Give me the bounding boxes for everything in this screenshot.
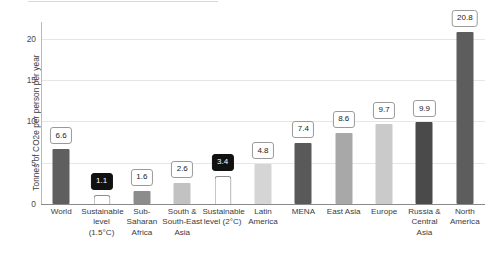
bar[interactable] bbox=[53, 149, 70, 204]
category-label-line: World bbox=[41, 207, 81, 217]
category-label-line: MENA bbox=[283, 207, 323, 217]
bar-value-badge: 1.6 bbox=[131, 169, 153, 186]
category-label-line: America bbox=[243, 217, 283, 227]
category-label-line: Asia bbox=[162, 228, 202, 238]
x-axis-category-label: East Asia bbox=[324, 207, 364, 217]
bar-series: 6.61.11.62.63.44.87.48.69.79.920.8 bbox=[41, 22, 485, 204]
bar-slot: 9.9 bbox=[404, 22, 444, 204]
y-axis-tick-label: 15 bbox=[27, 75, 36, 85]
category-label-line: level (2°C) bbox=[202, 217, 242, 227]
bar-slot: 6.6 bbox=[41, 22, 81, 204]
x-axis-category-label: Russia &Central Asia bbox=[404, 207, 444, 238]
y-axis-tick-label: 10 bbox=[27, 116, 36, 126]
bar-value-badge: 9.9 bbox=[413, 100, 435, 117]
x-axis-category-labels: WorldSustainablelevel (1.5°C)Sub-Saharan… bbox=[41, 207, 485, 253]
bar[interactable] bbox=[214, 176, 231, 204]
emissions-bar-chart: Tonnes of CO2e per person per year 05101… bbox=[0, 0, 492, 254]
x-axis-line bbox=[41, 204, 485, 205]
bar-value-badge: 8.6 bbox=[333, 111, 355, 128]
category-label-line: Sub- bbox=[122, 207, 162, 217]
bar-value-badge: 1.1 bbox=[90, 173, 112, 190]
bar-slot: 7.4 bbox=[283, 22, 323, 204]
bar-value-badge: 7.4 bbox=[292, 121, 314, 138]
category-label-line: Russia & bbox=[404, 207, 444, 217]
bar[interactable] bbox=[335, 133, 352, 204]
bar[interactable] bbox=[133, 191, 150, 204]
x-axis-category-label: Sub-SaharanAfrica bbox=[122, 207, 162, 238]
bar-value-badge: 9.7 bbox=[373, 102, 395, 119]
bar[interactable] bbox=[456, 32, 473, 204]
category-label-line: level (1.5°C) bbox=[81, 217, 121, 238]
bar-value-badge: 4.8 bbox=[252, 142, 274, 159]
bar[interactable] bbox=[376, 124, 393, 204]
bar-slot: 3.4 bbox=[202, 22, 242, 204]
bar[interactable] bbox=[416, 122, 433, 204]
category-label-line: Sustainable bbox=[202, 207, 242, 217]
bar-slot: 9.7 bbox=[364, 22, 404, 204]
bar[interactable] bbox=[254, 164, 271, 204]
category-label-line: East Asia bbox=[324, 207, 364, 217]
x-axis-category-label: Sustainablelevel (1.5°C) bbox=[81, 207, 121, 238]
bar-value-badge: 6.6 bbox=[50, 127, 72, 144]
x-axis-category-label: Europe bbox=[364, 207, 404, 217]
bar-slot: 1.6 bbox=[122, 22, 162, 204]
bar[interactable] bbox=[174, 183, 191, 205]
category-label-line: Europe bbox=[364, 207, 404, 217]
cropped-ui-edge bbox=[28, 1, 218, 2]
category-label-line: Latin bbox=[243, 207, 283, 217]
x-axis-category-label: NorthAmerica bbox=[445, 207, 485, 228]
category-label-line: Africa bbox=[122, 228, 162, 238]
category-label-line: South & bbox=[162, 207, 202, 217]
category-label-line: Central Asia bbox=[404, 217, 444, 238]
bar[interactable] bbox=[295, 143, 312, 204]
y-axis-tick-label: 5 bbox=[31, 158, 36, 168]
bar-value-badge: 20.8 bbox=[452, 10, 479, 27]
bar-value-badge: 3.4 bbox=[212, 154, 234, 171]
category-label-line: South-East bbox=[162, 217, 202, 227]
category-label-line: Saharan bbox=[122, 217, 162, 227]
x-axis-category-label: LatinAmerica bbox=[243, 207, 283, 228]
bar-slot: 2.6 bbox=[162, 22, 202, 204]
bar-slot: 8.6 bbox=[324, 22, 364, 204]
y-axis-tick-label: 20 bbox=[27, 34, 36, 44]
bar-slot: 4.8 bbox=[243, 22, 283, 204]
bar-value-badge: 2.6 bbox=[171, 161, 193, 178]
bar-slot: 1.1 bbox=[81, 22, 121, 204]
x-axis-category-label: Sustainablelevel (2°C) bbox=[202, 207, 242, 228]
bar[interactable] bbox=[93, 195, 110, 204]
category-label-line: North bbox=[445, 207, 485, 217]
x-axis-category-label: South &South-EastAsia bbox=[162, 207, 202, 238]
y-axis-tick-label: 0 bbox=[31, 199, 36, 209]
bar-slot: 20.8 bbox=[445, 22, 485, 204]
x-axis-category-label: MENA bbox=[283, 207, 323, 217]
category-label-line: America bbox=[445, 217, 485, 227]
plot-area: 05101520 6.61.11.62.63.44.87.48.69.79.92… bbox=[41, 22, 485, 204]
category-label-line: Sustainable bbox=[81, 207, 121, 217]
x-axis-category-label: World bbox=[41, 207, 81, 217]
